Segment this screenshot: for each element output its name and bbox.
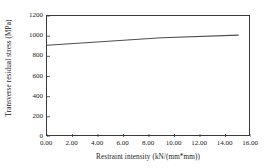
x-axis-tick-labels: 0.002.004.006.008.0010.0012.0014.0016.00 xyxy=(46,139,250,149)
y-axis-tick-marks xyxy=(47,16,50,137)
y-axis-tick-label: 200 xyxy=(1,112,43,120)
y-axis-tick-label: 600 xyxy=(1,72,43,80)
y-axis-tick-label: 400 xyxy=(1,92,43,100)
y-axis-tick-label: 1200 xyxy=(1,11,43,19)
chart-figure: Transverse residual stress (MPa) 0200400… xyxy=(0,0,271,168)
x-axis-tick-marks xyxy=(47,134,251,137)
x-axis-title: Restraint intensity (kN/(mm*mm)) xyxy=(46,152,250,162)
data-series-line xyxy=(47,35,238,45)
plot-canvas xyxy=(47,16,251,137)
y-axis-tick-label: 1000 xyxy=(1,31,43,39)
x-axis-tick-label: 16.00 xyxy=(233,139,267,147)
y-axis-tick-label: 800 xyxy=(1,51,43,59)
plot-area xyxy=(46,15,250,136)
